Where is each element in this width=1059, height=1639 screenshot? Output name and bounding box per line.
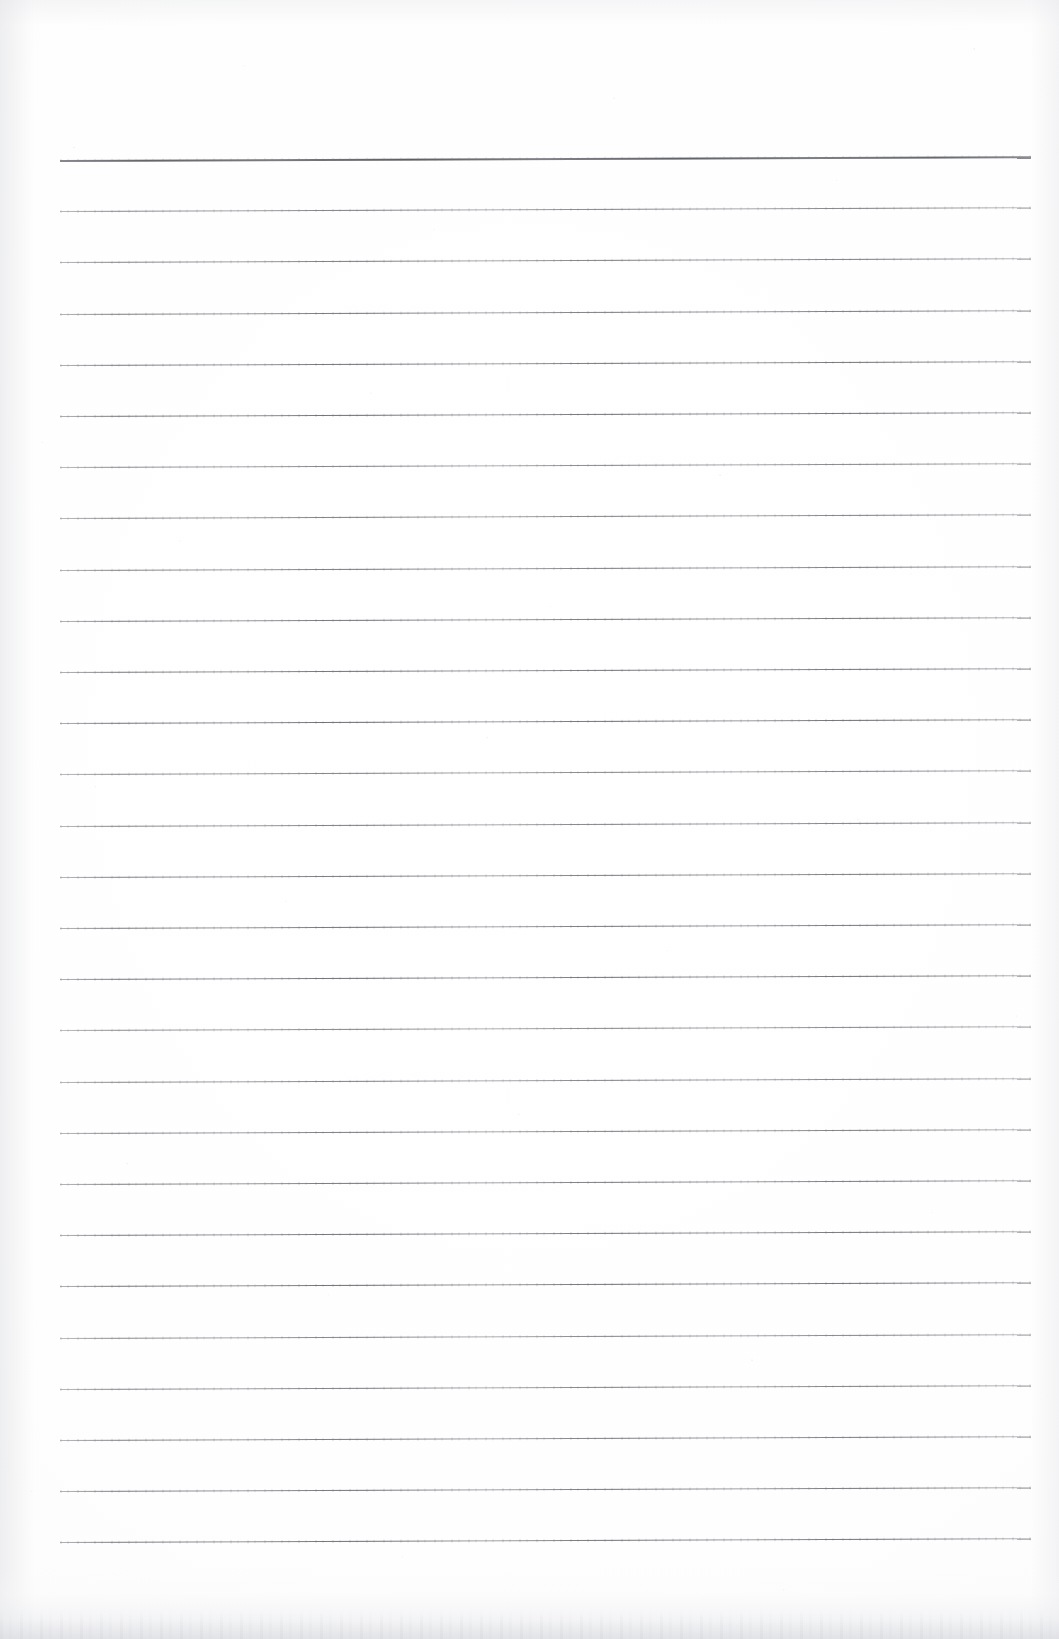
paper-background	[0, 0, 1059, 1639]
scanned-page	[0, 0, 1059, 1639]
